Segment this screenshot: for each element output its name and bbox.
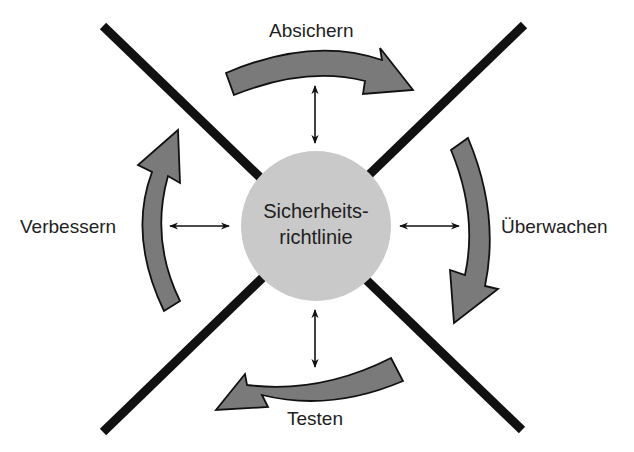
center-label: Sicherheits- richtlinie [236, 198, 396, 250]
curved-arrow-testen-icon [216, 358, 403, 410]
curved-arrow-ueberwachen-icon [450, 138, 498, 323]
curved-arrow-verbessern-icon [138, 130, 180, 311]
stage-label-absichern: Absichern [269, 21, 354, 40]
stage-label-testen: Testen [287, 409, 343, 428]
center-label-line1: Sicherheits- [236, 198, 396, 224]
stage-label-ueberwachen: Überwachen [501, 217, 608, 236]
center-label-line2: richtlinie [236, 224, 396, 250]
stage-label-verbessern: Verbessern [20, 217, 116, 236]
curved-arrow-absichern-icon [226, 48, 413, 95]
